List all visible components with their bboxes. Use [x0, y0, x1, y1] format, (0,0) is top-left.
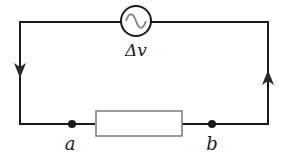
- source-label: Δv: [124, 40, 147, 60]
- ac-source: Δv: [121, 6, 151, 60]
- node-a-dot: [68, 120, 76, 128]
- right-top-wire: [151, 22, 268, 124]
- resistor: [96, 111, 182, 136]
- node-b-dot: [208, 120, 216, 128]
- left-top-wire: [20, 22, 121, 124]
- circuit-diagram: Δv a b: [0, 0, 298, 159]
- circuit-wires: [20, 22, 268, 124]
- node-a-label: a: [65, 133, 76, 154]
- node-b-label: b: [206, 133, 218, 154]
